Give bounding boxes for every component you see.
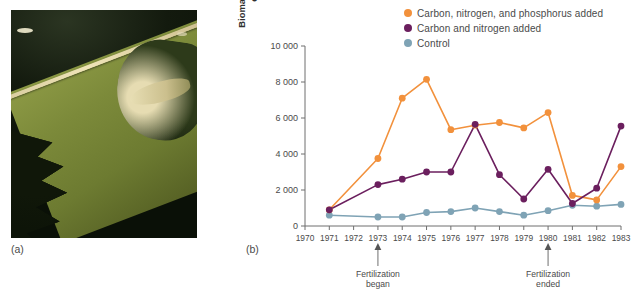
y-axis-tick-label: 10 000 — [270, 41, 298, 51]
panel-b-chart: Carbon, nitrogen, and phosphorus added C… — [232, 0, 631, 297]
panel-label-a: (a) — [11, 243, 24, 255]
data-point — [618, 201, 625, 208]
data-point — [375, 155, 382, 162]
x-axis-tick-label: 1971 — [320, 233, 339, 243]
x-axis-tick-label: 1982 — [587, 233, 606, 243]
data-point — [472, 121, 479, 128]
data-point — [520, 125, 527, 132]
data-point — [496, 208, 503, 215]
x-axis-tick-label: 1980 — [539, 233, 558, 243]
data-point — [496, 171, 503, 178]
annotation-label-line1: Fertilization — [356, 269, 400, 279]
x-axis-tick-label: 1978 — [490, 233, 509, 243]
data-point — [496, 119, 503, 126]
data-point — [326, 206, 333, 213]
y-axis-tick-label: 4 000 — [275, 149, 298, 159]
data-point — [618, 163, 625, 170]
chart-plot-area: 02 0004 0006 0008 00010 0001970197119721… — [232, 0, 631, 297]
data-point — [447, 169, 454, 176]
data-point — [593, 185, 600, 192]
data-point — [399, 176, 406, 183]
x-axis-tick-label: 1975 — [417, 233, 436, 243]
annotation-arrow-head-icon — [375, 243, 382, 250]
data-point — [423, 76, 430, 83]
data-point — [593, 203, 600, 210]
data-point — [399, 214, 406, 221]
x-axis-tick-label: 1973 — [369, 233, 388, 243]
lake-aerial-photo — [11, 10, 197, 238]
annotation-label-line2: ended — [536, 279, 560, 289]
annotation-arrow-head-icon — [545, 243, 552, 250]
data-point — [520, 196, 527, 203]
data-point — [569, 192, 576, 199]
data-point — [569, 200, 576, 207]
data-point — [399, 95, 406, 102]
data-point — [545, 166, 552, 173]
annotation-label-line2: began — [366, 279, 390, 289]
x-axis-tick-label: 1977 — [466, 233, 485, 243]
x-axis-tick-label: 1983 — [612, 233, 631, 243]
figure-container: (a) Carbon, nitrogen, and phosphorus add… — [0, 0, 631, 297]
y-axis-tick-label: 8 000 — [275, 77, 298, 87]
panel-label-b: (b) — [246, 243, 259, 255]
series-line-0 — [329, 79, 621, 210]
photo-sun-glint — [17, 28, 33, 33]
x-axis-tick-label: 1974 — [393, 233, 412, 243]
y-axis-tick-label: 2 000 — [275, 185, 298, 195]
x-axis-tick-label: 1981 — [563, 233, 582, 243]
data-point — [545, 109, 552, 116]
panel-a-photograph: (a) — [0, 0, 232, 265]
photo-sun-glint-secondary — [177, 32, 187, 36]
data-point — [375, 181, 382, 188]
data-point — [618, 123, 625, 130]
data-point — [545, 207, 552, 214]
annotation-label-line1: Fertilization — [526, 269, 570, 279]
data-point — [423, 169, 430, 176]
data-point — [375, 214, 382, 221]
data-point — [447, 208, 454, 215]
data-point — [423, 209, 430, 216]
data-point — [520, 212, 527, 219]
data-point — [447, 126, 454, 133]
data-point — [472, 205, 479, 212]
x-axis-tick-label: 1972 — [344, 233, 363, 243]
x-axis-tick-label: 1970 — [296, 233, 315, 243]
data-point — [593, 197, 600, 204]
x-axis-tick-label: 1976 — [442, 233, 461, 243]
y-axis-tick-label: 0 — [293, 221, 298, 231]
x-axis-tick-label: 1979 — [514, 233, 533, 243]
y-axis-tick-label: 6 000 — [275, 113, 298, 123]
